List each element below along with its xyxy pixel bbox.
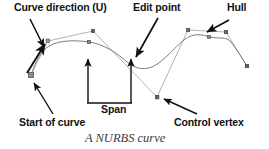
nurbs-curve-figure: Curve direction (U) Edit point Hull Star…	[0, 0, 269, 149]
arrow-start-of-curve	[34, 83, 53, 114]
nurbs-curve-group	[31, 35, 247, 75]
marker-edit-point	[208, 36, 211, 39]
marker-start-of-curve	[29, 73, 34, 78]
arrow-edit-point	[136, 18, 158, 57]
marker-control-vertex	[225, 31, 228, 34]
hull-polyline-group	[31, 30, 247, 97]
label-edit-point: Edit point	[133, 2, 180, 13]
marker-control-vertex	[46, 39, 50, 43]
label-curve-direction: Curve direction (U)	[14, 2, 107, 13]
arrow-control-vertex	[164, 99, 197, 114]
figure-caption: A NURBS curve	[85, 131, 165, 146]
marker-control-vertex	[187, 29, 190, 32]
vertex-markers-group	[29, 29, 249, 99]
arrow-curve-direction-upper	[30, 19, 44, 47]
label-control-vertex: Control vertex	[174, 117, 244, 128]
annotation-arrows-group	[27, 18, 229, 114]
marker-control-vertex	[156, 96, 159, 99]
label-hull: Hull	[227, 2, 246, 13]
arrow-curve-direction-lower	[27, 44, 45, 73]
hull-polyline	[31, 30, 247, 97]
marker-edit-point	[87, 40, 90, 43]
marker-control-vertex	[91, 29, 94, 32]
span-bracket-group	[87, 59, 132, 103]
marker-end-of-curve	[245, 64, 248, 67]
nurbs-curve-path	[31, 35, 247, 75]
label-span: Span	[101, 104, 126, 115]
label-start-of-curve: Start of curve	[19, 117, 85, 128]
